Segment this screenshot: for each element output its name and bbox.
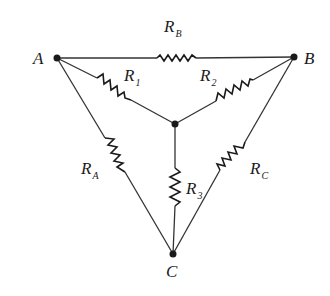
resistor-r2-label: R2 — [200, 67, 216, 88]
resistor-rb-branch — [57, 55, 294, 61]
r2-subscript: 2 — [211, 77, 216, 88]
resistor-ra-label: RA — [81, 160, 99, 181]
node-a-label: A — [33, 50, 43, 67]
r1-subscript: 1 — [135, 77, 140, 88]
node-c-dot — [170, 251, 177, 258]
resistor-r1-label: R1 — [124, 67, 140, 88]
resistor-r3-label: R3 — [186, 180, 202, 201]
node-b-label: B — [304, 50, 314, 67]
rb-letter: R — [164, 17, 174, 36]
r3-subscript: 3 — [197, 190, 202, 201]
rc-letter: R — [250, 159, 260, 178]
node-b-dot — [291, 54, 298, 61]
resistor-rc-label: RC — [250, 160, 268, 181]
ra-subscript: A — [92, 170, 98, 181]
r1-letter: R — [124, 66, 134, 85]
node-a-dot — [54, 55, 61, 62]
resistor-rb-label: RB — [164, 18, 182, 39]
node-c-label: C — [166, 263, 177, 280]
resistor-r2-branch — [175, 57, 294, 124]
ra-letter: R — [81, 159, 91, 178]
r2-letter: R — [200, 66, 210, 85]
rb-subscript: B — [175, 28, 181, 39]
delta-wye-circuit — [0, 0, 330, 296]
resistor-r1-branch — [57, 58, 175, 124]
resistor-r3-branch — [170, 124, 180, 254]
rc-subscript: C — [261, 170, 268, 181]
node-center-dot — [172, 121, 179, 128]
r3-letter: R — [186, 179, 196, 198]
